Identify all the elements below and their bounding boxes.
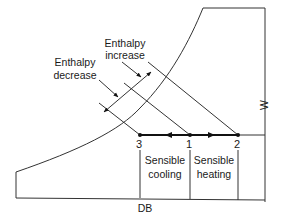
enthalpy-line-2: [148, 62, 238, 135]
point-label-2: 2: [234, 138, 240, 150]
enthalpy-line-1: [124, 83, 190, 135]
point-label-3: 3: [136, 138, 142, 150]
enthalpy-decrease-line1: Enthalpy: [55, 56, 97, 68]
state-point-3: [138, 133, 142, 137]
sensible-cooling-line2: cooling: [148, 168, 181, 180]
enthalpy-decrease-line2: decrease: [53, 69, 96, 81]
x-axis-label: DB: [138, 202, 153, 214]
sensible-heating-line1: Sensible: [194, 154, 234, 166]
sensible-cooling-line1: Sensible: [145, 154, 185, 166]
state-point-1: [188, 133, 192, 137]
cooling-direction-arrow-icon: [165, 132, 172, 138]
enthalpy-decrease-leader: [99, 80, 118, 97]
state-point-2: [236, 133, 240, 137]
enthalpy-increase-leader: [122, 62, 141, 77]
enthalpy-change-arrow: [104, 72, 151, 112]
psychrometric-diagram: 3 1 2 Sensible cooling Sensible heating …: [0, 0, 290, 221]
y-axis-label: W: [258, 100, 270, 110]
enthalpy-increase-line1: Enthalpy: [105, 37, 147, 49]
heating-direction-arrow-icon: [208, 132, 215, 138]
enthalpy-line-3: [99, 103, 140, 135]
sensible-heating-line2: heating: [197, 168, 232, 180]
enthalpy-increase-line2: increase: [105, 49, 145, 61]
point-label-1: 1: [186, 138, 192, 150]
